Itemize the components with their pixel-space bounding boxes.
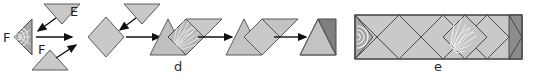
vertex-label-F-lower: F (38, 42, 45, 57)
shape-diamond-E (88, 17, 124, 57)
panel-label-d: d (174, 60, 182, 73)
band-right-cap (509, 15, 522, 59)
panel-d: F E F (3, 4, 336, 70)
figure-container: F E F (0, 0, 544, 81)
arrow-up-right-lower (56, 45, 76, 58)
arrow-down-left-upper (38, 18, 56, 31)
shape-triangle-F-left (8, 19, 32, 55)
vertex-label-F-left: F (3, 30, 10, 45)
panel-label-e: e (434, 60, 442, 73)
arrow-down-left-second (120, 18, 136, 30)
vertex-label-E: E (70, 4, 78, 19)
panel-e (346, 15, 522, 59)
band-outline (355, 15, 522, 59)
diagram-svg: F E F (0, 0, 544, 81)
shape-triangle-upper-2 (124, 4, 160, 24)
